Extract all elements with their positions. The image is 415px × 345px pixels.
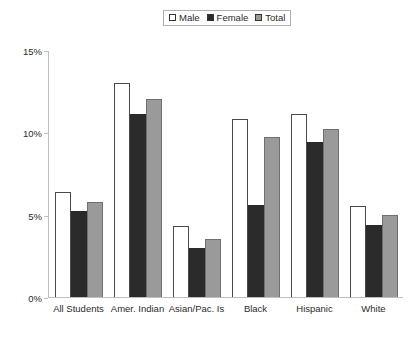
x-tick-label: Amer. Indian	[108, 303, 167, 314]
bar-male-hispanic	[291, 114, 307, 297]
legend-label-female: Female	[217, 13, 249, 23]
y-tick-mark	[44, 298, 48, 299]
y-tick-label: 0%	[28, 293, 42, 304]
bar-total-all-students	[87, 202, 103, 298]
bar-female-hispanic	[307, 142, 323, 297]
legend-swatch-male	[169, 14, 176, 21]
x-tick-label: Asian/Pac. Is	[167, 303, 226, 314]
plot-area: 0%5%10%15%	[48, 51, 403, 298]
bar-female-asian-pac-is	[189, 248, 205, 297]
bar-total-white	[382, 215, 398, 297]
legend-item-male: Male	[169, 13, 200, 23]
bar-group	[49, 51, 108, 297]
y-tick-label: 5%	[28, 210, 42, 221]
bar-male-white	[350, 206, 366, 297]
bar-total-amer-indian	[146, 99, 162, 297]
chart-legend: Male Female Total	[163, 10, 291, 26]
x-axis-labels: All StudentsAmer. IndianAsian/Pac. IsBla…	[49, 303, 403, 314]
x-tick-label: Hispanic	[285, 303, 344, 314]
legend-swatch-female	[207, 14, 214, 21]
legend-label-male: Male	[179, 13, 200, 23]
bar-group	[108, 51, 167, 297]
bar-group	[226, 51, 285, 297]
legend-item-female: Female	[207, 13, 249, 23]
legend-item-total: Total	[255, 13, 285, 23]
bar-male-black	[232, 119, 248, 297]
x-tick-label: White	[344, 303, 403, 314]
bar-male-amer-indian	[114, 83, 130, 297]
legend-swatch-total	[255, 14, 262, 21]
bar-group	[344, 51, 403, 297]
bar-male-asian-pac-is	[173, 226, 189, 297]
x-tick-label: Black	[226, 303, 285, 314]
bar-groups	[49, 51, 403, 297]
bar-group	[167, 51, 226, 297]
y-tick-mark	[44, 133, 48, 134]
y-tick-label: 15%	[23, 46, 42, 57]
legend-label-total: Total	[265, 13, 285, 23]
bar-female-all-students	[71, 211, 87, 297]
bar-female-black	[248, 205, 264, 297]
x-tick-label: All Students	[49, 303, 108, 314]
y-tick-label: 10%	[23, 128, 42, 139]
bar-male-all-students	[55, 192, 71, 297]
y-tick-mark	[44, 51, 48, 52]
x-axis-line	[48, 297, 403, 298]
bar-total-black	[264, 137, 280, 297]
bar-total-asian-pac-is	[205, 239, 221, 297]
bar-group	[285, 51, 344, 297]
bar-female-white	[366, 225, 382, 297]
bar-chart: Male Female Total 0%5%10%15% All Student…	[0, 0, 415, 345]
bar-total-hispanic	[323, 129, 339, 297]
y-tick-mark	[44, 216, 48, 217]
bar-female-amer-indian	[130, 114, 146, 297]
